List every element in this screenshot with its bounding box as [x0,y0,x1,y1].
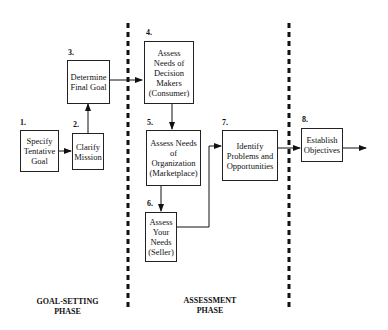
step-2-label: Clarify Mission [74,142,102,162]
step-3-label: Determine Final Goal [69,72,108,92]
step-6-box: Assess Your Needs (Seller) [145,212,177,262]
step-8-label: Establish Objectives [303,135,341,155]
step-4-number: 4. [146,28,152,37]
diagram-canvas: 1. Specify Tentative Goal 2. Clarify Mis… [0,0,388,330]
step-1-label: Specify Tentative Goal [22,136,57,166]
step-3-number: 3. [68,48,74,57]
step-6-label: Assess Your Needs (Seller) [147,217,175,257]
step-3-box: Determine Final Goal [67,60,110,104]
step-8-number: 8. [302,115,308,124]
phase-label-goal-setting: GOAL-SETTING PHASE [30,297,105,317]
step-2-box: Clarify Mission [72,133,104,170]
step-5-box: Assess Needs of Organization (Marketplac… [146,130,201,186]
step-4-box: Assess Needs of Decision Makers (Consume… [144,41,194,104]
step-8-box: Establish Objectives [301,128,343,162]
step-5-number: 5. [147,118,153,127]
step-5-label: Assess Needs of Organization (Marketplac… [148,138,199,178]
phase-label-assessment: ASSESSMENT PHASE [175,296,245,316]
step-2-number: 2. [73,120,79,129]
step-4-label: Assess Needs of Decision Makers (Consume… [146,48,192,98]
step-1-box: Specify Tentative Goal [20,130,59,172]
step-7-number: 7. [222,118,228,127]
step-6-number: 6. [147,199,153,208]
step-1-number: 1. [20,118,26,127]
step-7-box: Identify Problems and Opportunities [222,130,278,181]
step-7-label: Identify Problems and Opportunities [224,141,276,171]
